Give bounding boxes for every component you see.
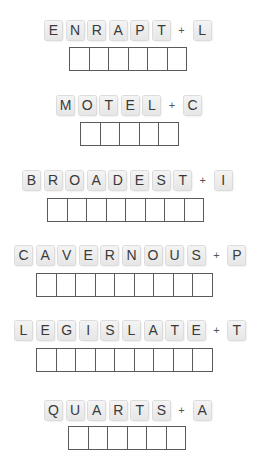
- answer-box[interactable]: [146, 426, 167, 450]
- answer-box[interactable]: [153, 348, 174, 372]
- answer-box[interactable]: [67, 198, 88, 222]
- answer-box[interactable]: [108, 47, 129, 71]
- answer-box[interactable]: [192, 273, 213, 297]
- answer-boxes: [36, 273, 213, 297]
- answer-box[interactable]: [106, 198, 127, 222]
- letter-tile: A: [88, 401, 105, 420]
- letter-tile: N: [123, 246, 140, 265]
- answer-box[interactable]: [86, 198, 107, 222]
- answer-boxes: [47, 198, 204, 222]
- answer-box[interactable]: [125, 198, 146, 222]
- plus-sign: +: [177, 404, 187, 416]
- extra-letter-tile: A: [194, 401, 211, 420]
- letter-tile: U: [67, 401, 84, 420]
- answer-box[interactable]: [95, 348, 116, 372]
- answer-box[interactable]: [184, 198, 205, 222]
- answer-box[interactable]: [139, 122, 160, 146]
- letter-tile: T: [166, 321, 183, 340]
- answer-box[interactable]: [75, 348, 96, 372]
- extra-letter-tile: C: [184, 96, 201, 115]
- answer-box[interactable]: [147, 47, 168, 71]
- letter-tile: G: [58, 321, 75, 340]
- letter-tile: A: [88, 171, 105, 190]
- answer-boxes: [36, 348, 213, 372]
- letter-tile: T: [100, 96, 117, 115]
- answer-box[interactable]: [69, 47, 90, 71]
- letter-tile: T: [174, 171, 191, 190]
- answer-box[interactable]: [47, 198, 68, 222]
- letter-tiles: QUARTS+A: [45, 400, 215, 420]
- letter-tile: T: [153, 21, 170, 40]
- letter-tile: L: [123, 321, 140, 340]
- letter-tile: O: [66, 171, 83, 190]
- answer-box[interactable]: [134, 273, 155, 297]
- letter-tiles: LEGISLATE+T: [15, 320, 250, 340]
- letter-tile: V: [58, 246, 75, 265]
- letter-tile: R: [101, 246, 118, 265]
- letter-tile: S: [188, 246, 205, 265]
- answer-box[interactable]: [80, 122, 101, 146]
- letter-tile: C: [15, 246, 32, 265]
- plus-sign: +: [211, 249, 221, 261]
- extra-letter-tile: T: [228, 321, 245, 340]
- answer-box[interactable]: [75, 273, 96, 297]
- answer-boxes: [68, 426, 186, 450]
- letter-tile: E: [122, 96, 139, 115]
- answer-box[interactable]: [119, 122, 140, 146]
- answer-box[interactable]: [56, 273, 77, 297]
- letter-tile: T: [131, 401, 148, 420]
- answer-box[interactable]: [114, 273, 135, 297]
- answer-box[interactable]: [114, 348, 135, 372]
- answer-box[interactable]: [100, 122, 121, 146]
- answer-box[interactable]: [173, 273, 194, 297]
- answer-box[interactable]: [173, 348, 194, 372]
- answer-box[interactable]: [164, 198, 185, 222]
- extra-letter-tile: P: [228, 246, 245, 265]
- letter-tile: E: [37, 321, 54, 340]
- letter-tile: R: [45, 171, 62, 190]
- plus-sign: +: [198, 174, 208, 186]
- letter-tile: D: [109, 171, 126, 190]
- letter-tile: S: [153, 401, 170, 420]
- extra-letter-tile: I: [215, 171, 232, 190]
- answer-box[interactable]: [56, 348, 77, 372]
- plus-sign: +: [211, 324, 221, 336]
- answer-box[interactable]: [68, 426, 89, 450]
- answer-box[interactable]: [127, 426, 148, 450]
- letter-tile: B: [23, 171, 40, 190]
- letter-tile: Q: [45, 401, 62, 420]
- answer-box[interactable]: [95, 273, 116, 297]
- letter-tiles: CAVERNOUS+P: [15, 245, 250, 265]
- letter-tile: A: [37, 246, 54, 265]
- answer-box[interactable]: [192, 348, 213, 372]
- answer-box[interactable]: [88, 426, 109, 450]
- letter-tile: E: [80, 246, 97, 265]
- answer-box[interactable]: [36, 348, 57, 372]
- answer-box[interactable]: [128, 47, 149, 71]
- answer-box[interactable]: [158, 122, 179, 146]
- answer-box[interactable]: [166, 426, 187, 450]
- answer-box[interactable]: [153, 273, 174, 297]
- letter-tile: S: [153, 171, 170, 190]
- plus-sign: +: [167, 99, 177, 111]
- letter-tiles: ENRAPT+L: [45, 20, 215, 40]
- letter-tile: A: [110, 21, 127, 40]
- answer-box[interactable]: [167, 47, 188, 71]
- letter-tiles: MOTEL+C: [57, 95, 206, 115]
- answer-box[interactable]: [107, 426, 128, 450]
- letter-tile: E: [188, 321, 205, 340]
- letter-tile: M: [57, 96, 74, 115]
- answer-box[interactable]: [145, 198, 166, 222]
- answer-box[interactable]: [89, 47, 110, 71]
- letter-tile: E: [131, 171, 148, 190]
- letter-tile: N: [67, 21, 84, 40]
- answer-box[interactable]: [36, 273, 57, 297]
- letter-tile: U: [166, 246, 183, 265]
- letter-tile: L: [15, 321, 32, 340]
- letter-tiles: BROADEST+I: [23, 170, 236, 190]
- letter-tile: A: [145, 321, 162, 340]
- letter-tile: L: [143, 96, 160, 115]
- answer-box[interactable]: [134, 348, 155, 372]
- letter-tile: R: [110, 401, 127, 420]
- letter-tile: R: [88, 21, 105, 40]
